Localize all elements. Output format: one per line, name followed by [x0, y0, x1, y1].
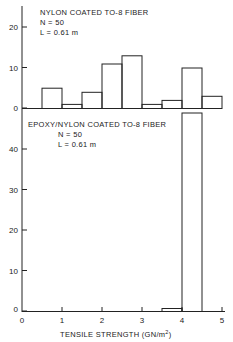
top-bar-4.0-4.5	[182, 68, 202, 109]
x-axis-title: TENSILE STRENGTH (GN/m2)	[60, 329, 172, 339]
bottom-n-label: N = 50	[58, 130, 82, 139]
bottom-xtick-label-5: 5	[220, 316, 225, 325]
top-bar-3.5-4.0	[162, 100, 182, 108]
top-bar-4.5-5.0	[202, 96, 222, 108]
top-ytick-label-20: 20	[9, 23, 18, 32]
bottom-panel	[22, 109, 225, 312]
bottom-l-label: L = 0.61 m	[58, 140, 96, 149]
top-bar-3.0-3.5	[142, 104, 162, 108]
bottom-xtick-label-3: 3	[140, 316, 145, 325]
bottom-xtick-label-1: 1	[60, 316, 65, 325]
top-ytick-label-10: 10	[9, 64, 18, 73]
bottom-ytick-label-40: 40	[9, 145, 18, 154]
bottom-ytick-label-20: 20	[9, 226, 18, 235]
bottom-xtick-label-0: 0	[20, 316, 25, 325]
bottom-ytick-label-30: 30	[9, 186, 18, 195]
top-bar-2.5-3.0	[122, 56, 142, 109]
histogram-figure: 20 10 0 NYLON COATED TO-8 FIBER N = 50 L…	[0, 0, 233, 342]
bottom-bar-4.0-4.5	[182, 113, 202, 312]
bottom-ytick-label-10: 10	[9, 267, 18, 276]
top-n-label: N = 50	[40, 18, 64, 27]
bottom-ytick-label-0: 0	[14, 305, 19, 314]
bottom-title: EPOXY/NYLON COATED TO-8 FIBER	[28, 120, 167, 129]
x-axis-title-main: TENSILE STRENGTH (GN/m	[60, 330, 165, 339]
top-l-label: L = 0.61 m	[40, 28, 78, 37]
top-bar-0.5-1.0	[42, 88, 62, 108]
top-title: NYLON COATED TO-8 FIBER	[40, 8, 149, 17]
top-ytick-label-0: 0	[14, 104, 19, 113]
bottom-bar-3.5-4.0	[162, 309, 182, 312]
top-bar-2.0-2.5	[102, 64, 122, 109]
x-axis-title-end: )	[169, 330, 172, 339]
top-bar-1.0-1.5	[62, 104, 82, 108]
bottom-xtick-label-4: 4	[180, 316, 185, 325]
top-bar-1.5-2.0	[82, 92, 102, 108]
bottom-xtick-label-2: 2	[100, 316, 105, 325]
